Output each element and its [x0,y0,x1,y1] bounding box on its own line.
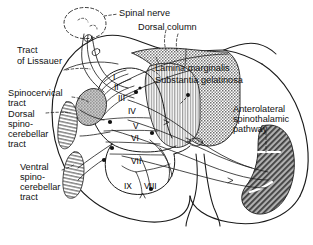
dorsal-spinocerebellar-tract-region [58,102,77,149]
label-spinocervical-line2: tract [8,98,26,108]
label-spinocervical-line1: Spinocervical [8,88,63,98]
spinal-cord-diagram: Spinal nerve Dorsal column Lamina margin… [0,0,313,245]
label-anterolateral-line2: spinothalamic [233,114,289,124]
lamina-label-iv: IV [128,107,136,115]
leader-dorsal-column-2 [165,30,167,50]
leader-dorsal-spinocerebellar [46,112,70,113]
lamina-label-ii: II [114,83,119,91]
ventral-median-fissure [186,154,220,226]
anterolateral-spinothalamic-region [242,125,295,214]
label-ventral-spinocerebellar-line3: cerebellar [20,182,60,192]
label-anterolateral-line3: pathway [233,124,267,134]
lamina-label-i: I [113,73,115,81]
label-ventral-spinocerebellar-line1: Ventral [20,162,49,172]
label-dorsal-spinocerebellar-line2: spino- [8,119,33,129]
lamina-label-ix: IX [124,182,132,190]
label-tract-of-lissauer-line2: of Lissauer [17,56,62,66]
label-spinal-nerve: Spinal nerve [119,8,170,18]
ventral-spinocerebellar-tract-region [63,152,84,199]
label-substantia-gelatinosa: Substantia gelatinosa [155,75,243,85]
lamina-label-vi: VI [131,134,139,142]
lamina-label-v: V [133,122,139,130]
lamina-label-iii: III [118,94,125,102]
leader-spinal-nerve [104,14,118,16]
label-tract-of-lissauer-line1: Tract [17,45,38,55]
label-dorsal-spinocerebellar-line1: Dorsal [8,109,35,119]
label-ventral-spinocerebellar-line2: spino- [20,172,45,182]
label-dorsal-spinocerebellar-line3: cerebellar [8,129,48,139]
label-ventral-spinocerebellar-line4: tract [20,192,38,202]
lamina-label-viii: VIII [144,182,157,190]
label-dorsal-column: Dorsal column [138,22,197,32]
lamina-label-vii: VII [131,157,141,165]
label-anterolateral-line1: Anterolateral [233,104,285,114]
leader-lissauer [66,68,90,70]
label-lamina-marginalis: Lamina marginalis [155,63,230,73]
label-dorsal-spinocerebellar-line4: tract [8,139,26,149]
